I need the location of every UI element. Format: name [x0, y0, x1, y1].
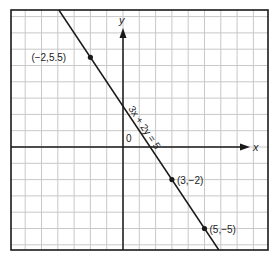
- data-point-marker: [169, 177, 174, 182]
- x-axis-label: x: [252, 141, 259, 153]
- point-label: (5,−5): [210, 224, 236, 235]
- origin-label: 0: [126, 133, 132, 144]
- point-label: (−2,5.5): [31, 52, 66, 63]
- data-point-marker: [202, 226, 207, 231]
- equation-label: 3x + 2y = 5: [126, 104, 163, 152]
- x-axis-arrow-icon: [240, 144, 250, 151]
- data-point-marker: [88, 55, 93, 60]
- y-axis-label: y: [118, 14, 126, 26]
- point-label: (3,−2): [177, 175, 203, 186]
- coordinate-plot: x y 0 3x + 2y = 5 (−2,5.5) (3,−2) (5,−5): [0, 0, 277, 260]
